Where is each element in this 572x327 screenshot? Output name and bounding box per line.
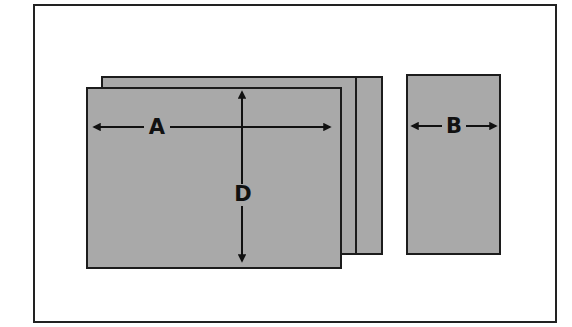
dimension-arrows <box>0 0 572 327</box>
dimension-a-label: A <box>144 117 170 139</box>
dimension-b-label: B <box>442 116 466 138</box>
dimension-d-label: D <box>232 184 254 206</box>
